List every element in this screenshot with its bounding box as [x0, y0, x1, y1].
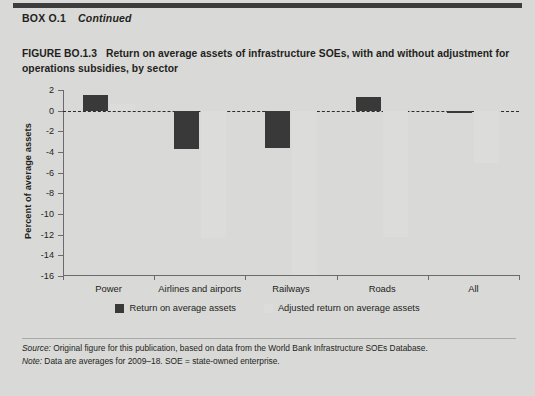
- bar-power-series-1: [83, 95, 108, 111]
- x-axis-tick: [154, 275, 155, 280]
- source-note-text: Original figure for this publication, ba…: [53, 343, 428, 353]
- box-continued-label: Continued: [78, 12, 132, 24]
- legend-item-1: Return on average assets: [115, 303, 235, 313]
- chart-legend: Return on average assetsAdjusted return …: [0, 303, 535, 313]
- bar-railways-series-2: [292, 111, 317, 275]
- x-axis-tick: [63, 275, 64, 280]
- x-axis-label-airlines-and-airports: Airlines and airports: [154, 283, 245, 294]
- y-axis-tick-label: -8: [14, 188, 54, 198]
- box-header: BOX O.1Continued: [22, 12, 132, 24]
- y-axis-tick-label: -12: [14, 230, 54, 240]
- figure-note: Note: Data are averages for 2009–18. SOE…: [22, 356, 522, 368]
- x-axis-label-roads: Roads: [337, 283, 428, 294]
- x-axis-tick: [337, 275, 338, 280]
- box-label: BOX O.1: [22, 12, 66, 24]
- bar-railways-series-1: [265, 111, 290, 148]
- legend-item-2: Adjusted return on average assets: [264, 303, 420, 313]
- top-rule-divider: [13, 3, 522, 8]
- y-axis-tick-label: -10: [14, 209, 54, 219]
- figure-box-page: BOX O.1Continued FIGURE BO.1.3Return on …: [0, 0, 535, 396]
- source-note: Source: Original figure for this publica…: [22, 343, 522, 355]
- x-axis-label-power: Power: [63, 283, 154, 294]
- figure-number-label: FIGURE BO.1.3: [22, 48, 97, 59]
- bar-airlines-and-airports-series-1: [174, 111, 199, 149]
- y-axis-tick-label: 2: [14, 85, 54, 95]
- x-axis-label-railways: Railways: [245, 283, 336, 294]
- source-note-label: Source:: [22, 343, 51, 353]
- y-axis-tick-label: -4: [14, 147, 54, 157]
- bar-all-series-2: [474, 111, 499, 164]
- x-axis-tick: [519, 275, 520, 280]
- x-axis-tick: [428, 275, 429, 280]
- figure-title-block: FIGURE BO.1.3Return on average assets of…: [22, 47, 516, 76]
- chart-bar-return-on-average-assets: Percent of average assets 20-2-4-6-8-10-…: [0, 84, 535, 299]
- x-axis-label-all: All: [428, 283, 519, 294]
- y-axis-tick-label: -2: [14, 126, 54, 136]
- x-axis-tick: [245, 275, 246, 280]
- y-axis-tick-label: -16: [14, 271, 54, 281]
- plot-area: [63, 90, 519, 276]
- figure-note-text: Data are averages for 2009–18. SOE = sta…: [44, 356, 279, 366]
- y-axis-tick-label: 0: [14, 106, 54, 116]
- bar-power-series-2: [110, 104, 135, 110]
- bar-airlines-and-airports-series-2: [201, 111, 226, 238]
- y-axis-tick-label: -6: [14, 168, 54, 178]
- figure-note-label: Note:: [22, 356, 42, 366]
- legend-swatch-icon: [115, 304, 124, 313]
- legend-label: Return on average assets: [129, 303, 235, 313]
- y-axis-tick-label: -14: [14, 250, 54, 260]
- bar-roads-series-1: [356, 97, 381, 110]
- footnote-divider: [22, 338, 516, 339]
- legend-swatch-icon: [264, 304, 273, 313]
- legend-label: Adjusted return on average assets: [278, 303, 420, 313]
- bar-roads-series-2: [383, 111, 408, 237]
- bar-all-series-1: [447, 111, 472, 113]
